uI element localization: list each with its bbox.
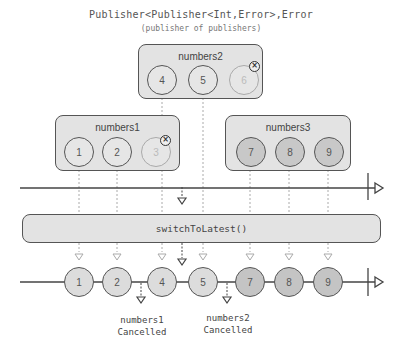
value-circle: 4 bbox=[147, 65, 177, 95]
note-line: numbers2 bbox=[196, 312, 260, 324]
output-circle: 5 bbox=[188, 267, 218, 297]
output-circle: 1 bbox=[64, 267, 94, 297]
note-line: numbers1 bbox=[110, 314, 174, 326]
publisher-box-numbers3: numbers3 7 8 9 bbox=[225, 115, 351, 171]
output-circle: 2 bbox=[102, 267, 132, 297]
diagram-title: Publisher<Publisher<Int,Error>,Error bbox=[0, 9, 402, 20]
value-circle: 2 bbox=[102, 137, 132, 167]
note-line: Cancelled bbox=[110, 326, 174, 338]
cancel-icon: × bbox=[160, 135, 171, 146]
cancel-note-numbers2: numbers2 Cancelled bbox=[196, 312, 260, 336]
publisher-box-numbers1: numbers1 1 2 3 × bbox=[55, 115, 180, 171]
value-circle: 1 bbox=[64, 137, 94, 167]
output-circle: 8 bbox=[274, 267, 304, 297]
publisher-box-numbers2: numbers2 4 5 6 × bbox=[138, 44, 263, 99]
publisher-label: numbers3 bbox=[226, 122, 350, 133]
diagram-subtitle: (publisher of publishers) bbox=[0, 24, 402, 33]
cancel-icon: × bbox=[249, 61, 260, 72]
value-circle: 7 bbox=[236, 137, 266, 167]
output-circle: 4 bbox=[147, 267, 177, 297]
note-line: Cancelled bbox=[196, 324, 260, 336]
output-circle: 9 bbox=[313, 267, 343, 297]
publisher-label: numbers1 bbox=[56, 122, 179, 133]
value-circle: 5 bbox=[188, 65, 218, 95]
operator-box: switchToLatest() bbox=[22, 214, 381, 243]
cancel-note-numbers1: numbers1 Cancelled bbox=[110, 314, 174, 338]
publisher-label: numbers2 bbox=[139, 51, 262, 62]
value-circle: 9 bbox=[314, 137, 344, 167]
output-circle: 7 bbox=[235, 267, 265, 297]
value-circle: 8 bbox=[275, 137, 305, 167]
